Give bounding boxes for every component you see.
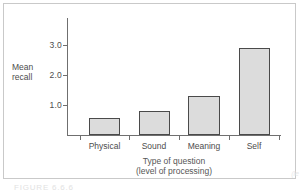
bar-self (239, 48, 270, 135)
x-tick-mark-2 (179, 136, 180, 140)
y-tick-mark-2 (63, 75, 67, 76)
y-tick-label-1-wrap: 1.0 (36, 101, 62, 111)
figure-corner-mark: (le (291, 170, 299, 177)
figure-container: 3.0 2.0 1.0 Mean recall Physical Sound M… (0, 0, 303, 195)
y-axis-title-line2: recall (12, 72, 32, 82)
y-tick-label-1: 1.0 (40, 101, 62, 110)
x-axis-line (67, 135, 281, 136)
y-tick-label-3: 3.0 (40, 41, 62, 50)
bar-physical (89, 118, 120, 135)
y-tick-label-3-wrap: 3.0 (36, 41, 62, 51)
x-tick-mark-0 (80, 136, 81, 140)
x-category-label-meaning: Meaning (179, 141, 229, 151)
x-category-label-self: Self (229, 141, 279, 151)
figure-caption: FIGURE 6.6.6 (14, 183, 74, 192)
y-axis-line (67, 18, 68, 136)
x-axis-title: Type of question (level of processing) (68, 156, 280, 176)
bar-meaning (188, 96, 220, 135)
y-axis-title-line1: Mean (12, 62, 33, 72)
x-tick-mark-3 (229, 136, 230, 140)
x-tick-mark-1 (129, 136, 130, 140)
x-axis-title-line1: Type of question (143, 156, 205, 166)
x-axis-title-line2: (level of processing) (68, 166, 280, 176)
x-tick-mark-4 (279, 136, 280, 140)
y-tick-mark-1 (63, 105, 67, 106)
bar-sound (139, 111, 170, 135)
x-category-label-physical: Physical (80, 141, 129, 151)
y-axis-title: Mean recall (12, 62, 50, 82)
y-tick-mark-3 (63, 45, 67, 46)
x-category-label-sound: Sound (129, 141, 179, 151)
